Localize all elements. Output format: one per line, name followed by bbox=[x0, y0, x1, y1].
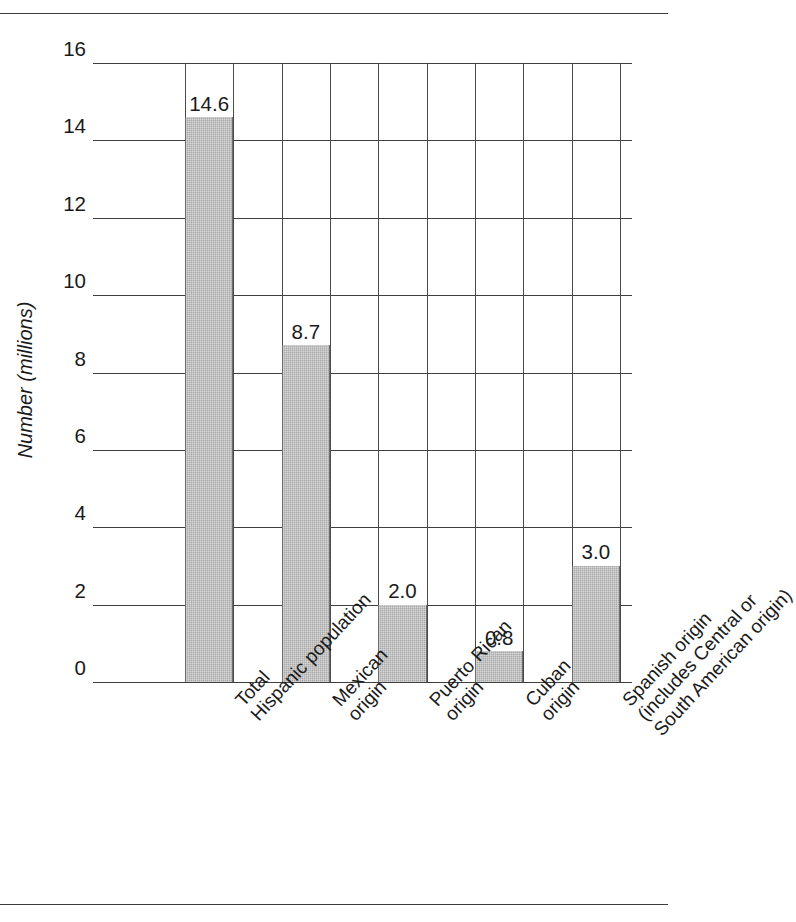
bar-value-label: 14.6 bbox=[189, 94, 229, 118]
y-tick-label: 14 bbox=[63, 116, 86, 141]
y-axis-title: Number (millions) bbox=[14, 302, 37, 459]
y-tick-label: 4 bbox=[75, 503, 86, 528]
y-tick-label: 6 bbox=[75, 425, 86, 450]
bar-value-label: 8.7 bbox=[292, 322, 321, 346]
bar-value-label: 2.0 bbox=[388, 581, 417, 605]
gridline-x-7 bbox=[523, 63, 524, 682]
bar[interactable]: 3.0 bbox=[572, 566, 620, 682]
bar-value-label: 3.0 bbox=[582, 542, 611, 566]
y-tick-label: 8 bbox=[75, 348, 86, 373]
gridline-y-12 bbox=[93, 218, 632, 219]
gridline-x-6 bbox=[475, 63, 476, 682]
gridline-y-14 bbox=[93, 140, 632, 141]
y-tick-label: 0 bbox=[75, 658, 86, 683]
y-tick-label: 2 bbox=[75, 580, 86, 605]
y-tick-label: 10 bbox=[63, 271, 86, 296]
gridline-y-6 bbox=[93, 450, 632, 451]
gridline-y-4 bbox=[93, 527, 632, 528]
gridline-x-1 bbox=[233, 63, 234, 682]
gridline-y-16 bbox=[93, 63, 632, 64]
plot-area: 0246810121416 14.68.72.00.83.0 bbox=[93, 63, 632, 682]
y-tick-label: 12 bbox=[63, 193, 86, 218]
x-category-label-line: (includes Central or bbox=[634, 570, 781, 725]
y-tick-label: 16 bbox=[63, 39, 86, 64]
top-divider-rule bbox=[0, 13, 668, 14]
gridline-y-10 bbox=[93, 295, 632, 296]
x-category-label: Spanish origin(includes Central orSouth … bbox=[618, 555, 796, 739]
gridline-y-8 bbox=[93, 373, 632, 374]
gridline-x-4 bbox=[378, 63, 379, 682]
gridline-x-9 bbox=[620, 63, 621, 682]
bar[interactable]: 14.6 bbox=[185, 117, 233, 682]
gridline-x-5 bbox=[427, 63, 428, 682]
bottom-divider-rule bbox=[0, 904, 668, 905]
